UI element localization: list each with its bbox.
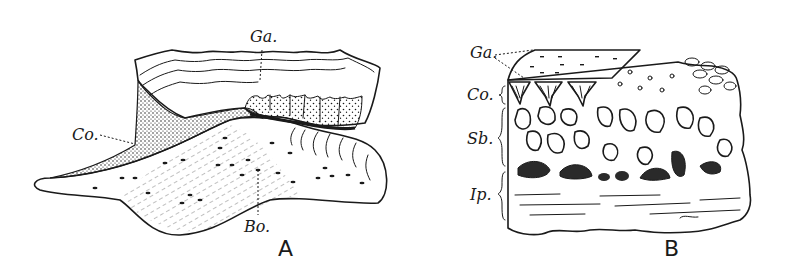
label-bone-a: Bo. <box>243 217 270 236</box>
panel-a: Ga. Co. Bo. A <box>35 27 387 261</box>
label-ganoine-b: Ga. <box>470 43 497 62</box>
panel-letter-a: A <box>278 236 293 261</box>
label-isopedine-b: Ip. <box>469 185 492 204</box>
dentine-columns <box>245 95 362 129</box>
panel-letter-b: B <box>664 236 679 261</box>
bone-ridges <box>291 128 370 180</box>
leader-cosmine-a <box>100 135 135 144</box>
label-spongy-bone-b: Sb. <box>467 129 493 148</box>
ganoine-cap <box>508 50 640 80</box>
leader-ganoine-a <box>260 50 262 80</box>
scale-structure-figure: Ga. Co. Bo. A <box>0 0 806 276</box>
isopedine-lamellae <box>515 194 740 218</box>
label-cosmine-a: Co. <box>72 125 99 144</box>
ganoine-pores <box>530 56 617 73</box>
vascular-cavities <box>518 151 721 181</box>
spongy-bone-cavities <box>515 107 732 165</box>
panel-b: Ga. Co. Sb. Ip. B <box>467 43 751 261</box>
cosmine-canals <box>509 82 596 106</box>
label-cosmine-b: Co. <box>467 85 494 104</box>
label-ganoine-a: Ga. <box>250 27 277 46</box>
canal-rings <box>618 58 736 94</box>
layer-braces <box>498 86 505 220</box>
section-block <box>508 62 751 235</box>
